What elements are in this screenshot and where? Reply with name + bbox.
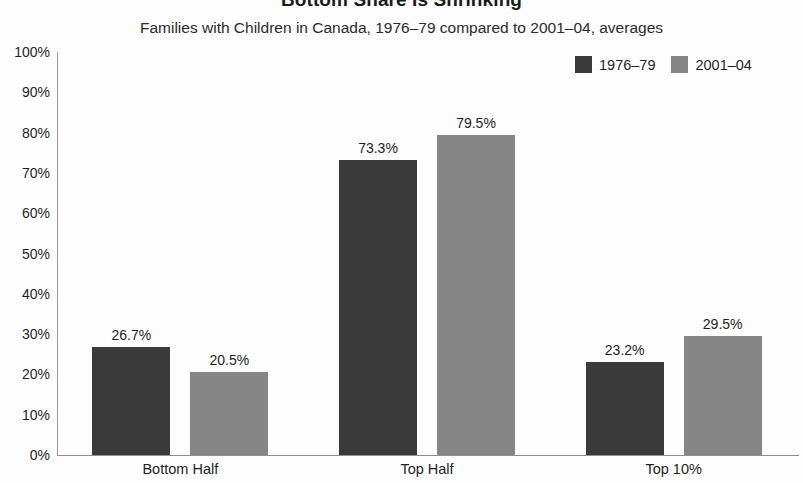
x-axis-category-label: Top Half [400, 461, 453, 477]
chart-subtitle: Families with Children in Canada, 1976–7… [0, 19, 803, 37]
y-axis-tick-label: 100% [14, 44, 50, 60]
y-axis-tick-label: 50% [22, 246, 50, 262]
y-axis-tick-label: 10% [22, 407, 50, 423]
bar-value-label: 20.5% [209, 352, 249, 368]
bar-value-label: 23.2% [605, 342, 645, 358]
y-axis-tick-label: 70% [22, 165, 50, 181]
x-axis-category-label: Bottom Half [142, 461, 218, 477]
y-axis-tick-label: 90% [22, 84, 50, 100]
bar [190, 372, 268, 455]
bar [92, 347, 170, 455]
y-axis-tick-label: 40% [22, 286, 50, 302]
bar-value-label: 26.7% [111, 327, 151, 343]
bar-value-label: 29.5% [703, 316, 743, 332]
bar [437, 135, 515, 455]
bar [684, 336, 762, 455]
y-axis-tick-label: 30% [22, 326, 50, 342]
chart-figure: Bottom Share Is Shrinking Families with … [0, 0, 803, 483]
bar [586, 362, 664, 455]
chart-title: Bottom Share Is Shrinking [0, 0, 803, 11]
bar-value-label: 79.5% [456, 115, 496, 131]
x-axis-line [57, 455, 799, 456]
y-axis-tick-label: 80% [22, 125, 50, 141]
y-axis-tick-label: 20% [22, 366, 50, 382]
y-axis-tick-label: 0% [30, 447, 50, 463]
bar-value-label: 73.3% [358, 140, 398, 156]
y-axis-tick-label: 60% [22, 205, 50, 221]
bar [339, 160, 417, 455]
y-axis-tick-labels: 0%10%20%30%40%50%60%70%80%90%100% [0, 0, 50, 483]
plot-area: 26.7%20.5%73.3%79.5%23.2%29.5% [57, 52, 797, 455]
x-axis-category-label: Top 10% [645, 461, 701, 477]
